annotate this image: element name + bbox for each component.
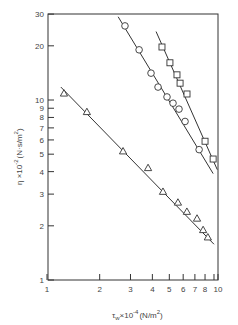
circle-marker bbox=[122, 23, 129, 30]
circle-marker bbox=[155, 84, 162, 91]
x-axis-ticks: 1234567810 bbox=[45, 274, 223, 294]
x-tick-label: 3 bbox=[128, 285, 133, 294]
circle-marker bbox=[196, 146, 203, 153]
x-tick-label: 2 bbox=[97, 285, 102, 294]
plot-frame bbox=[48, 14, 218, 280]
triangle-marker bbox=[174, 199, 181, 205]
x-tick-label: 8 bbox=[203, 285, 208, 294]
square-marker bbox=[210, 156, 216, 162]
x-tick-label: 7 bbox=[193, 285, 198, 294]
x-tick-label: 4 bbox=[150, 285, 155, 294]
y-tick-label: 10 bbox=[35, 96, 44, 105]
y-tick-label: 30 bbox=[35, 10, 44, 19]
y-tick-label: 6 bbox=[40, 136, 45, 145]
y-tick-label: 5 bbox=[40, 150, 45, 159]
viscosity-shear-stress-chart: 1234567810 123456789102030 τw×10-4(N/m2)… bbox=[0, 0, 238, 325]
y-tick-label: 1 bbox=[40, 276, 45, 285]
y-tick-label: 4 bbox=[40, 168, 45, 177]
circle-marker bbox=[176, 106, 183, 113]
x-tick-label: 10 bbox=[214, 285, 223, 294]
y-tick-label: 8 bbox=[40, 113, 45, 122]
x-tick-label: 1 bbox=[45, 285, 50, 294]
y-axis-label: η ×10-2(N·s/m2) bbox=[13, 128, 24, 185]
x-axis-label: τw×10-4(N/m2) bbox=[112, 309, 163, 321]
y-tick-label: 3 bbox=[40, 190, 45, 199]
plot-border bbox=[48, 14, 218, 280]
square-marker bbox=[202, 138, 208, 144]
x-tick-label: 6 bbox=[181, 285, 186, 294]
y-tick-label: 9 bbox=[40, 104, 45, 113]
x-tick-label: 5 bbox=[167, 285, 172, 294]
circle-marker bbox=[148, 70, 155, 77]
circle-marker bbox=[170, 100, 177, 107]
triangle-marker bbox=[204, 234, 211, 240]
triangle-marker bbox=[200, 226, 207, 232]
square-marker bbox=[167, 60, 173, 66]
triangle-marker bbox=[193, 215, 200, 221]
circle-marker bbox=[182, 118, 189, 125]
square-marker bbox=[174, 72, 180, 78]
squares-fit-line bbox=[156, 32, 217, 170]
circle-marker bbox=[136, 47, 143, 54]
y-tick-label: 2 bbox=[40, 222, 45, 231]
y-tick-label: 7 bbox=[40, 124, 45, 133]
y-axis-ticks: 123456789102030 bbox=[35, 10, 54, 285]
data-markers bbox=[60, 23, 216, 240]
square-marker bbox=[184, 91, 190, 97]
triangle-marker bbox=[144, 164, 151, 170]
triangle-marker bbox=[183, 208, 190, 214]
square-marker bbox=[177, 80, 183, 86]
circle-marker bbox=[164, 94, 171, 101]
square-marker bbox=[159, 44, 165, 50]
y-tick-label: 20 bbox=[35, 42, 44, 51]
